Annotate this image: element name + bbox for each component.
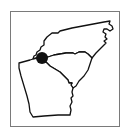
location-marker [36,52,48,64]
map-canvas [0,0,125,137]
